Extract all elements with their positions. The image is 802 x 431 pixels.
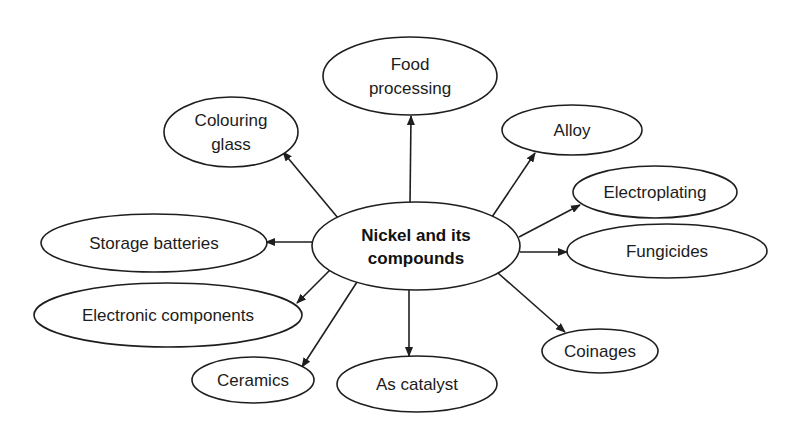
node-electroplating: Electroplating <box>573 166 737 218</box>
node-ellipse <box>164 97 298 167</box>
nickel-uses-diagram: FoodprocessingColouringglassAlloyElectro… <box>0 0 802 431</box>
node-ellipse <box>323 37 497 115</box>
arrow-to-colouring-glass <box>283 152 338 218</box>
node-label-line1: Colouring <box>195 111 268 130</box>
node-ceramics: Ceramics <box>192 357 314 403</box>
diagram-canvas: FoodprocessingColouringglassAlloyElectro… <box>0 0 802 431</box>
node-label-line1: Coinages <box>564 342 636 361</box>
node-label-line1: Food <box>391 55 430 74</box>
node-food-processing: Foodprocessing <box>323 37 497 115</box>
node-label-line2: glass <box>211 135 251 154</box>
node-alloy: Alloy <box>502 105 642 155</box>
center-ellipse <box>312 202 520 290</box>
node-coinages: Coinages <box>542 329 658 373</box>
arrow-to-coinages <box>498 273 565 332</box>
node-storage-batteries: Storage batteries <box>41 214 267 272</box>
center-node: Nickel and its compounds <box>312 202 520 290</box>
arrow-to-food-processing <box>410 116 411 204</box>
arrow-to-electroplating <box>519 205 580 237</box>
node-label-line1: Ceramics <box>217 371 289 390</box>
arrow-to-alloy <box>492 153 535 217</box>
node-colouring-glass: Colouringglass <box>164 97 298 167</box>
center-label-line1: Nickel and its <box>361 226 471 245</box>
node-as-catalyst: As catalyst <box>337 356 497 412</box>
node-fungicides: Fungicides <box>567 224 767 278</box>
node-label-line1: Alloy <box>554 121 591 140</box>
node-label-line1: Electronic components <box>82 306 254 325</box>
node-label-line2: processing <box>369 79 451 98</box>
center-label-line2: compounds <box>368 249 464 268</box>
node-label-line1: Fungicides <box>626 242 708 261</box>
node-label-line1: Storage batteries <box>89 234 218 253</box>
arrow-to-electronic-components <box>297 270 330 303</box>
node-label-line1: As catalyst <box>376 375 458 394</box>
arrow-to-ceramics <box>302 282 357 367</box>
node-electronic-components: Electronic components <box>34 283 302 347</box>
node-label-line1: Electroplating <box>603 183 706 202</box>
